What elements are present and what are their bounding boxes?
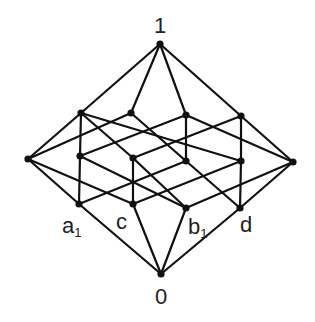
edge-m3-d — [186, 161, 240, 208]
node-u4 — [237, 112, 244, 119]
label-c: c — [116, 209, 127, 234]
edge-right-u4 — [241, 116, 293, 162]
edge-right-u3 — [186, 115, 293, 162]
node-u1 — [77, 109, 84, 116]
label-d: d — [240, 212, 252, 237]
edge-m4-c — [133, 161, 241, 204]
edge-left-a1 — [28, 159, 79, 204]
node-m2 — [129, 154, 136, 161]
node-c — [129, 200, 136, 207]
label-a1-main: a — [62, 213, 75, 238]
edge-top-u1 — [81, 44, 160, 113]
edge-m4-d — [240, 161, 241, 208]
node-top — [156, 40, 163, 47]
node-bottom — [157, 270, 164, 277]
label-top: 1 — [154, 13, 166, 38]
node-a1 — [75, 200, 82, 207]
node-m1 — [76, 152, 83, 159]
node-right — [289, 158, 296, 165]
edge-u2-m3 — [131, 113, 186, 161]
nodes — [24, 40, 296, 277]
label-b1-main: b — [188, 214, 200, 239]
edge-u1-m4 — [81, 113, 241, 161]
edge-bottom-c — [133, 204, 161, 274]
node-u2 — [127, 109, 134, 116]
edge-right-d — [240, 162, 293, 208]
lattice-diagram: 1 0 a1 c b1 d — [0, 0, 315, 322]
label-a1-sub: 1 — [74, 225, 81, 240]
node-m4 — [237, 157, 244, 164]
edge-u3-m1 — [80, 115, 186, 156]
node-d — [236, 204, 243, 211]
edge-top-u2 — [131, 44, 160, 113]
node-u3 — [182, 111, 189, 118]
edge-u1-m1 — [80, 113, 81, 156]
label-bottom: 0 — [155, 284, 167, 309]
node-left — [24, 155, 31, 162]
edge-left-u1 — [28, 113, 81, 159]
edges — [28, 44, 293, 274]
node-b1 — [182, 204, 189, 211]
label-b1-sub: 1 — [200, 226, 207, 241]
label-b1: b1 — [188, 214, 207, 241]
label-a1: a1 — [62, 213, 81, 240]
edge-m1-a1 — [79, 156, 80, 204]
node-m3 — [182, 157, 189, 164]
